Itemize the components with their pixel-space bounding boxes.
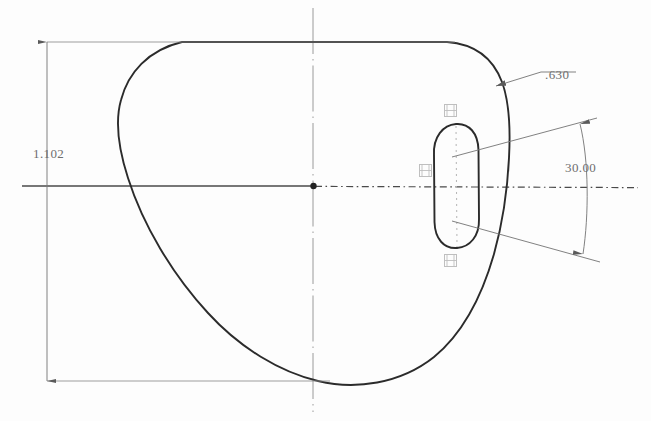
slot-profile [434,124,479,248]
dimension-radius-label[interactable]: .630 [545,67,569,83]
main-profile [118,42,510,385]
center-point-marker [310,183,316,189]
sketch-constraint-glyphs [420,105,457,267]
drawing-vector-layer [0,0,651,421]
dimension-angle-label[interactable]: 30.00 [565,160,596,176]
horizontal-centerline-right [315,186,638,187]
dimension-height-label[interactable]: 1.102 [33,146,64,162]
dimension-angle[interactable] [452,118,600,262]
dimension-height[interactable] [47,42,455,381]
constraint-glyph-top [445,105,457,117]
constraint-glyph-bottom [445,255,457,267]
technical-drawing-canvas: 1.102 .630 30.00 [0,0,651,421]
slot-internal-centerline [456,126,457,247]
angle-leg-upper [452,118,597,157]
angle-leg-lower [452,221,600,262]
leader-line-slanted [496,72,541,86]
main-profile-path [118,42,510,385]
angle-dimension-arc [580,124,587,254]
constraint-glyph-left [420,165,432,177]
